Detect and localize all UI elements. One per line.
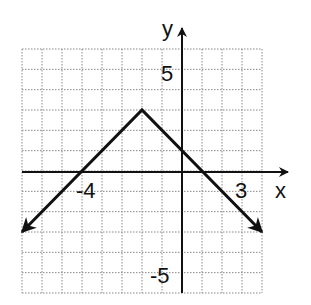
y-tick-5: 5	[161, 61, 173, 86]
y-tick-neg5: -5	[150, 263, 170, 288]
x-tick-3: 3	[235, 178, 247, 203]
x-axis-label: x	[275, 178, 286, 203]
x-tick-neg4: -4	[76, 178, 96, 203]
y-axis-label: y	[162, 16, 173, 41]
coordinate-plane: y x 5 -5 -4 3	[0, 0, 311, 305]
